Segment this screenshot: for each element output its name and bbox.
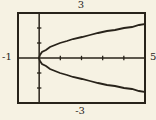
ymin-window-label: -3 — [75, 105, 85, 116]
curve-upper-branch — [39, 24, 145, 58]
calculator-graph-figure: 3 -3 -1 5 — [0, 0, 156, 120]
xmax-window-label: 5 — [150, 51, 156, 62]
ymax-window-label: 3 — [78, 0, 84, 10]
xmin-window-label: -1 — [2, 51, 12, 62]
plot-canvas — [0, 0, 156, 120]
curve-lower-branch — [39, 58, 145, 92]
